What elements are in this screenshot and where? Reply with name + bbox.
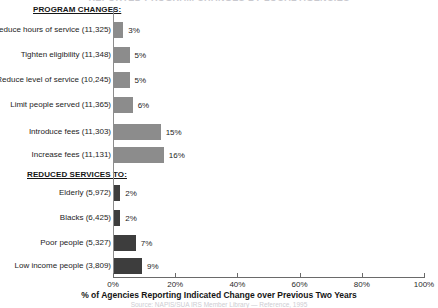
x-axis-title: % of Agencies Reporting Indicated Change… — [0, 290, 438, 300]
bar-value-label: 9% — [147, 262, 159, 271]
bar-category-label: Limit people served (11,365) — [10, 100, 111, 109]
value-axis-line — [113, 8, 114, 277]
bar-value-label: 7% — [141, 239, 153, 248]
bar-rect — [114, 210, 120, 226]
bar-row: Limit people served (11,365)6% — [0, 97, 438, 113]
bar-category-label: Increase fees (11,131) — [32, 150, 111, 159]
bar-category-label: Blacks (6,425) — [60, 213, 111, 222]
bar-rect — [114, 258, 142, 274]
bar-value-label: 6% — [138, 101, 150, 110]
bar-category-label: Introduce fees (11,303) — [29, 127, 111, 136]
x-axis-tick-label: 0% — [107, 280, 119, 289]
x-axis-tick-label: 20% — [167, 280, 183, 289]
bar-value-label: 16% — [169, 151, 185, 160]
bar-category-label: Reduce hours of service (11,325) — [0, 25, 111, 34]
bar-category-label: Reduce level of service (10,245) — [0, 75, 111, 84]
x-axis-tick — [300, 273, 301, 278]
chart-title: REPORTED PROGRAM CHANGES BY LOCAL AGENCI… — [0, 0, 438, 1]
bar-chart: REPORTED PROGRAM CHANGES BY LOCAL AGENCI… — [0, 0, 438, 308]
x-axis-tick-label: 60% — [292, 280, 308, 289]
bar-category-label: Elderly (5,972) — [59, 188, 111, 197]
bar-value-label: 5% — [135, 51, 147, 60]
section-header-reduced-services: REDUCED SERVICES TO: — [27, 170, 127, 179]
bar-row: Reduce level of service (10,245)5% — [0, 72, 438, 88]
category-axis-line — [113, 277, 424, 278]
bar-value-label: 2% — [125, 189, 137, 198]
bar-rect — [114, 97, 133, 113]
bar-rect — [114, 147, 164, 163]
bar-row: Low income people (3,809)9% — [0, 258, 438, 274]
bar-row: Blacks (6,425)2% — [0, 210, 438, 226]
section-header-program-changes: PROGRAM CHANGES: — [33, 5, 121, 14]
x-axis-tick-label: 40% — [229, 280, 245, 289]
source-note: Source: NAPIS/SUA IRS Member Library — R… — [0, 301, 438, 308]
x-axis-tick — [362, 273, 363, 278]
bar-rect — [114, 47, 130, 63]
bar-row: Tighten eligibility (11,348)5% — [0, 47, 438, 63]
bar-row: Introduce fees (11,303)15% — [0, 124, 438, 140]
bar-value-label: 2% — [125, 214, 137, 223]
bar-row: Elderly (5,972)2% — [0, 185, 438, 201]
bar-rect — [114, 72, 130, 88]
bar-value-label: 3% — [128, 26, 140, 35]
bar-category-label: Low income people (3,809) — [14, 261, 111, 270]
bar-category-label: Tighten eligibility (11,348) — [21, 50, 111, 59]
x-axis-tick-label: 80% — [354, 280, 370, 289]
bar-value-label: 15% — [166, 128, 182, 137]
x-axis-tick — [237, 273, 238, 278]
x-axis-tick-label: 100% — [414, 280, 434, 289]
bar-rect — [114, 185, 120, 201]
bar-row: Increase fees (11,131)16% — [0, 147, 438, 163]
bar-rect — [114, 22, 123, 38]
bar-value-label: 5% — [135, 76, 147, 85]
bar-category-label: Poor people (5,327) — [40, 238, 111, 247]
x-axis-tick — [113, 273, 114, 278]
bar-rect — [114, 235, 136, 251]
bar-rect — [114, 124, 161, 140]
bar-row: Reduce hours of service (11,325)3% — [0, 22, 438, 38]
x-axis-tick — [175, 273, 176, 278]
x-axis-tick — [424, 273, 425, 278]
bar-row: Poor people (5,327)7% — [0, 235, 438, 251]
